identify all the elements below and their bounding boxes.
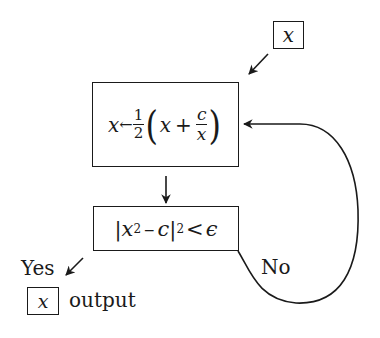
input-box: x xyxy=(273,21,304,49)
half-fraction: 1 2 xyxy=(133,108,145,141)
close-paren: ) xyxy=(209,105,221,145)
less-than-sign: < xyxy=(186,217,204,241)
input-variable: x xyxy=(283,23,294,47)
square-exponent: 2 xyxy=(133,222,141,236)
yes-label: Yes xyxy=(21,256,55,280)
test-x: x xyxy=(122,217,134,241)
plus-sign: + xyxy=(175,113,192,137)
minus-sign: – xyxy=(144,217,155,241)
square-exponent-outer: 2 xyxy=(176,222,184,236)
output-label: output xyxy=(69,288,136,312)
c-over-x-fraction: c x xyxy=(196,106,208,143)
output-box: x xyxy=(27,287,59,315)
yes-arrow xyxy=(66,258,83,275)
update-box: x ← 1 2 ( x + c x ) xyxy=(92,82,239,167)
update-lhs: x xyxy=(108,113,119,137)
abs-bar-open: | xyxy=(115,217,122,241)
abs-bar-close: | xyxy=(169,217,176,241)
output-variable: x xyxy=(38,290,49,312)
loop-back-arrow xyxy=(238,124,358,303)
test-box: | x 2 – c | 2 < ϵ xyxy=(93,206,239,251)
no-label: No xyxy=(261,255,291,279)
term-x: x xyxy=(160,113,171,137)
epsilon: ϵ xyxy=(206,217,218,241)
open-paren: ( xyxy=(146,105,158,145)
input-arrow xyxy=(249,54,268,74)
assign-arrow: ← xyxy=(119,115,132,134)
test-c: c xyxy=(158,217,170,241)
